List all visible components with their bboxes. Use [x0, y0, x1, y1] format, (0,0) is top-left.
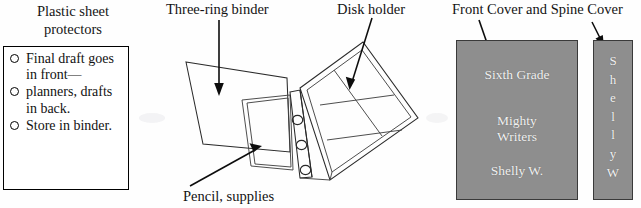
- binder-inner-pocket: [242, 95, 293, 170]
- disk-holder-inner-border: [307, 50, 411, 172]
- open-circle-icon: [10, 54, 19, 63]
- binder-inner-pocket-inner: [247, 98, 291, 167]
- arrow-pencil-supplies: [190, 150, 255, 186]
- label-three-ring-binder: Three-ring binder: [166, 1, 269, 18]
- front-cover-line-writers: Writers: [457, 129, 577, 145]
- label-front-and-spine-cover: Front Cover and Spine Cover: [452, 1, 623, 18]
- binder-ring: [292, 115, 302, 124]
- disk-grid-line-vertical: [334, 70, 382, 136]
- spine-cover-vertical-text: S h e l l y W: [594, 52, 632, 182]
- label-disk-holder: Disk holder: [337, 1, 405, 18]
- binder-left-cover: [186, 62, 290, 152]
- checklist-item-label: Final draft goes in front—: [26, 51, 114, 82]
- spine-letter: W: [594, 164, 632, 183]
- binder-ring: [300, 165, 310, 174]
- checklist-item[interactable]: Final draft goes in front—: [9, 51, 124, 83]
- arrow-disk-holder: [352, 18, 372, 82]
- arrow-spine-cover: [592, 22, 601, 40]
- checklist-item-label: Store in binder.: [26, 118, 112, 133]
- checklist-box: Final draft goes in front— planners, dra…: [3, 46, 129, 190]
- spine-letter: e: [594, 89, 632, 108]
- spine-letter: h: [594, 71, 632, 90]
- binder-spine-strip: [290, 90, 312, 178]
- checklist-item[interactable]: Store in binder.: [9, 118, 124, 134]
- binder-spine-edge: [300, 90, 312, 177]
- arrowhead-pencil-supplies: [250, 143, 263, 152]
- figure-canvas: Plastic sheet protectors Final draft goe…: [0, 0, 641, 208]
- spine-cover-artwork[interactable]: S h e l l y W: [593, 40, 633, 200]
- open-circle-icon: [10, 87, 19, 96]
- spine-letter: l: [594, 126, 632, 145]
- binder-base-edge: [300, 172, 332, 180]
- spine-letter: y: [594, 145, 632, 164]
- spine-letter: S: [594, 52, 632, 71]
- checklist-item[interactable]: planners, drafts in back.: [9, 84, 124, 116]
- disk-grid-line-horizontal: [327, 130, 402, 140]
- checklist-title: Plastic sheet protectors: [14, 2, 132, 38]
- spine-letter: l: [594, 108, 632, 127]
- arrowhead-disk-holder: [346, 77, 355, 90]
- arrowhead-three-ring-binder: [214, 83, 224, 96]
- checklist-item-label: planners, drafts in back.: [26, 84, 112, 115]
- label-pencil-supplies: Pencil, supplies: [183, 188, 274, 205]
- disk-holder-panel: [300, 42, 418, 180]
- front-cover-line-grade: Sixth Grade: [457, 67, 577, 83]
- front-cover-artwork[interactable]: Sixth Grade Mighty Writers Shelly W.: [456, 40, 578, 200]
- front-cover-line-name: Shelly W.: [457, 163, 577, 179]
- open-circle-icon: [10, 121, 19, 130]
- front-cover-line-mighty: Mighty: [457, 113, 577, 129]
- binder-ring: [296, 140, 306, 149]
- disk-grid-line-horizontal: [320, 95, 394, 105]
